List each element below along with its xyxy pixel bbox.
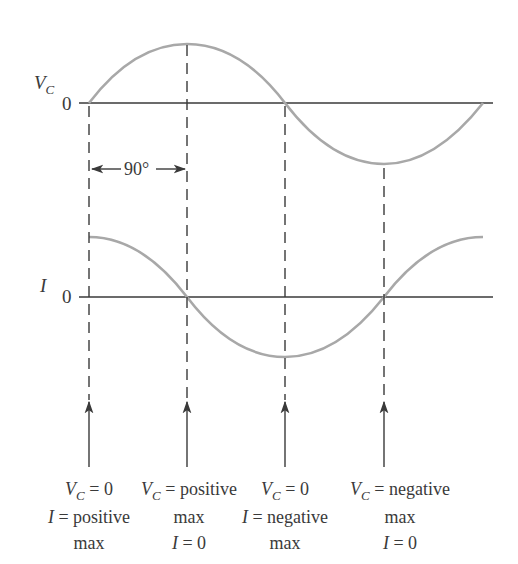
caption-270deg: VC = negative max I = 0 [340,476,460,556]
caption-0deg: VC = 0 I = positive max [39,476,139,556]
caption-sub: C [76,488,85,503]
vc-zero-label: 0 [62,93,72,115]
phase-marker-lines [89,45,384,400]
caption-text: = 0 [178,533,206,553]
caption-text: = 0 [281,479,309,499]
vc-axis-label: VC [34,73,54,95]
caption-line: max [340,504,460,530]
i-axis-label: I [40,276,46,296]
caption-var: V [141,479,152,499]
caption-line: I = negative [235,504,335,530]
vc-waveform [89,44,483,164]
vc-label-main: V [34,72,46,93]
caption-text: = negative [248,507,328,527]
vc-label-sub: C [46,82,55,97]
caption-sub: C [152,488,161,503]
caption-line: max [134,504,244,530]
caption-var: V [65,479,76,499]
caption-text: = 0 [389,533,417,553]
caption-line: VC = 0 [235,476,335,504]
i-zero-label: 0 [62,286,72,308]
caption-90deg: VC = positive max I = 0 [134,476,244,556]
caption-text: = negative [370,479,450,499]
caption-sub: C [272,488,281,503]
phase-difference-label: 90° [122,159,151,180]
caption-var: V [261,479,272,499]
capacitor-phase-diagram: VC 0 I 0 90° VC = 0 I = positive max VC … [0,0,518,564]
caption-text: = 0 [85,479,113,499]
caption-180deg: VC = 0 I = negative max [235,476,335,556]
caption-line: I = positive [39,504,139,530]
caption-line: VC = 0 [39,476,139,504]
caption-line: max [39,530,139,556]
caption-line: I = 0 [340,530,460,556]
caption-line: VC = positive [134,476,244,504]
caption-text: = positive [161,479,237,499]
caption-sub: C [361,488,370,503]
caption-text: = positive [54,507,130,527]
caption-line: max [235,530,335,556]
caption-line: VC = negative [340,476,460,504]
caption-line: I = 0 [134,530,244,556]
caption-var: V [350,479,361,499]
